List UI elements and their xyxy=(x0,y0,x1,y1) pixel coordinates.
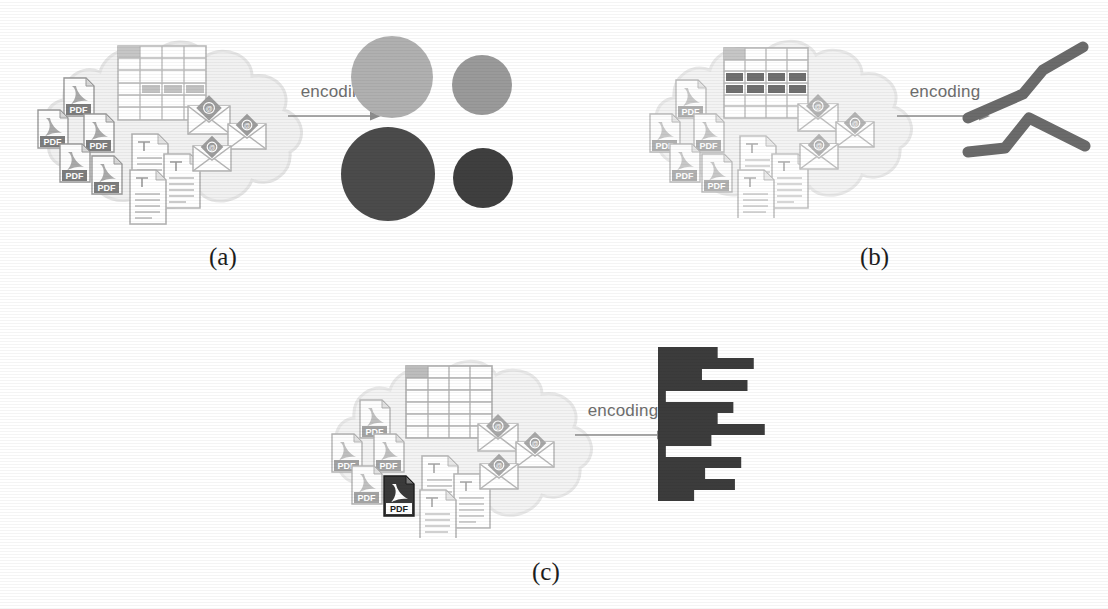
encoding-arrow-c: encoding xyxy=(570,402,676,446)
svg-text:PDF: PDF xyxy=(676,171,695,181)
pdf-icon: PDF xyxy=(374,434,404,472)
panel-label-b: (b) xyxy=(860,243,889,271)
table-icon-b xyxy=(724,48,808,118)
cloud-b: PDF PDF PDF PDF xyxy=(640,18,930,218)
encoding-label-c: encoding xyxy=(570,402,676,419)
svg-text:PDF: PDF xyxy=(390,504,409,514)
encoding-arrow-a: encoding xyxy=(283,83,389,127)
text-document-icon xyxy=(420,490,456,538)
svg-text:@: @ xyxy=(205,105,212,112)
encoding-arrow-b: encoding xyxy=(892,83,998,127)
pdf-icon: PDF xyxy=(38,110,68,148)
panel-b: PDF PDF PDF PDF xyxy=(630,0,1108,290)
panel-c: PDF PDF PDF PDF xyxy=(300,330,820,609)
pdf-icon: PDF xyxy=(60,144,90,182)
pdf-icon: PDF xyxy=(84,114,114,152)
panel-label-c: (c) xyxy=(532,558,560,586)
cloud-a: PDF PDF PDF PDF xyxy=(30,18,320,228)
svg-text:@: @ xyxy=(244,122,251,129)
pdf-icon: PDF xyxy=(676,80,706,118)
svg-text:PDF: PDF xyxy=(358,493,377,503)
svg-text:@: @ xyxy=(532,440,539,447)
pdf-icon: PDF xyxy=(694,114,724,152)
arrow-icon xyxy=(892,109,998,127)
svg-text:@: @ xyxy=(496,462,503,469)
svg-text:PDF: PDF xyxy=(66,171,85,181)
encoding-label-a: encoding xyxy=(283,83,389,100)
svg-text:PDF: PDF xyxy=(90,141,109,151)
svg-text:PDF: PDF xyxy=(44,137,63,147)
encoding-label-b: encoding xyxy=(892,83,998,100)
svg-text:PDF: PDF xyxy=(380,461,399,471)
pdf-icon: PDF xyxy=(702,154,732,192)
pdf-icon: PDF xyxy=(64,78,94,116)
svg-text:PDF: PDF xyxy=(700,141,719,151)
panel-a: PDF PDF PDF PDF xyxy=(0,0,540,290)
text-document-icon xyxy=(738,170,774,218)
svg-text:PDF: PDF xyxy=(708,181,727,191)
arrow-icon xyxy=(570,428,676,446)
cloud-c: PDF PDF PDF PDF xyxy=(320,338,610,538)
svg-text:@: @ xyxy=(814,103,821,110)
arrow-icon xyxy=(283,109,389,127)
text-document-icon xyxy=(130,170,166,224)
pdf-icon-highlighted: PDF xyxy=(384,476,414,516)
pdf-icon: PDF xyxy=(92,156,122,194)
svg-text:@: @ xyxy=(209,144,216,151)
pdf-icon: PDF xyxy=(360,400,390,438)
pdf-icon: PDF xyxy=(352,466,382,504)
panel-label-a: (a) xyxy=(209,243,237,271)
svg-text:@: @ xyxy=(816,142,823,149)
pdf-icon: PDF xyxy=(670,144,700,182)
svg-text:PDF: PDF xyxy=(98,183,117,193)
svg-text:@: @ xyxy=(494,423,501,430)
svg-text:@: @ xyxy=(852,120,859,127)
